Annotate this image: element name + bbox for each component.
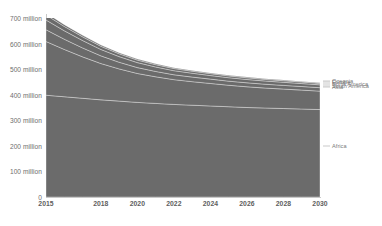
y-axis-ticks: 0100 million200 million300 million400 mi… (0, 0, 42, 226)
y-tick-label: 300 million (10, 117, 42, 124)
y-tick-label: 700 million (10, 15, 42, 22)
y-tick-label: 400 million (10, 91, 42, 98)
y-tick-label: 200 million (10, 142, 42, 149)
plot-area (46, 18, 320, 197)
series-label-asia: Asia (332, 84, 343, 90)
y-tick-label: 600 million (10, 40, 42, 47)
x-tick-label: 2028 (276, 200, 291, 207)
x-tick-label: 2018 (93, 200, 108, 207)
series-label-group: OceaniaEuropeNorth AmericaSouth AmericaA… (322, 0, 382, 226)
series-leader-line (323, 145, 330, 146)
series-leader-line (323, 87, 330, 88)
x-tick-label: 2022 (166, 200, 181, 207)
stacked-area-chart: Population 0100 million200 million300 mi… (0, 0, 382, 226)
x-tick-label: 2020 (130, 200, 145, 207)
y-tick-label: 100 million (10, 168, 42, 175)
series-label-africa: Africa (332, 143, 347, 149)
area-band-africa (46, 95, 320, 197)
x-axis-line (46, 197, 321, 198)
x-tick-label: 2024 (203, 200, 218, 207)
y-tick-label: 500 million (10, 66, 42, 73)
x-tick-label: 2026 (239, 200, 254, 207)
x-tick-label: 2015 (38, 200, 53, 207)
area-series-group (46, 18, 320, 197)
